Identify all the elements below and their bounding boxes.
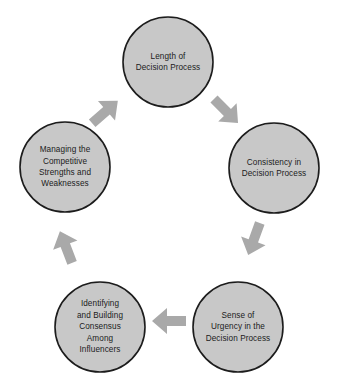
node-circle-managing-the-competitive-strengths-and-weaknesses[interactable] bbox=[20, 122, 110, 212]
cycle-diagram: Length of Decision Process Consistency i… bbox=[0, 0, 338, 373]
arrow-top-to-right bbox=[205, 90, 247, 132]
node-circle-length-of-decision-process[interactable] bbox=[123, 17, 213, 107]
arrow-right-to-bottom-right bbox=[236, 219, 272, 260]
arrow-bottom-right-to-bottom-left bbox=[152, 308, 186, 334]
node-circle-consistency-in-decision-process[interactable] bbox=[229, 123, 319, 213]
arrow-bottom-left-to-left bbox=[48, 226, 84, 267]
arrow-left-to-top bbox=[84, 91, 127, 133]
diagram-canvas bbox=[0, 0, 338, 373]
node-circle-sense-of-urgency-in-the-decision-process[interactable] bbox=[193, 282, 283, 372]
node-circle-identifying-and-building-consensus-among-influencers[interactable] bbox=[55, 282, 145, 372]
